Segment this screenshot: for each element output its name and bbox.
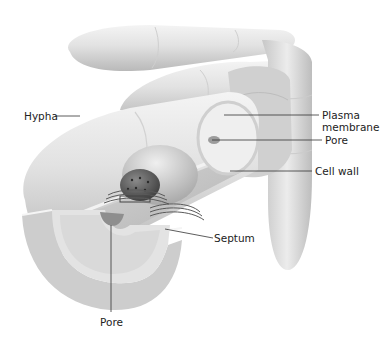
label-plasma-membrane-1: Plasma [322, 109, 360, 121]
leader-septum [165, 229, 213, 238]
main-hypha [22, 92, 259, 310]
label-hypha: Hypha [24, 110, 58, 122]
label-septum: Septum [214, 232, 255, 244]
label-pore-upper: Pore [325, 134, 348, 146]
label-cell-wall: Cell wall [315, 165, 359, 177]
label-plasma-membrane-2: membrane [322, 121, 379, 133]
label-pore-lower: Pore [100, 316, 123, 328]
